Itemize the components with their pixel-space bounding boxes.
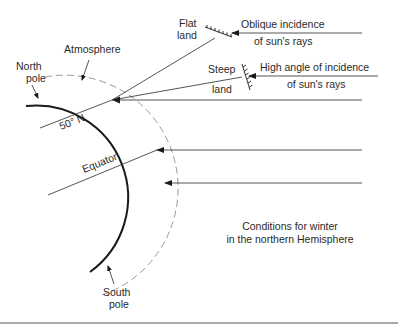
latitude-label: 50° N <box>57 111 86 132</box>
caption-line-2: in the northern Hemisphere <box>226 233 353 245</box>
steep-land-surface-icon <box>242 64 253 90</box>
north-pole-pointer <box>32 85 38 98</box>
south-pole-pointer <box>108 266 114 284</box>
south-pole-label-1: South <box>103 286 131 298</box>
atmosphere-arc <box>45 75 178 295</box>
south-pole-label-2: pole <box>109 298 129 310</box>
flat-land-label-1: Flat <box>179 17 197 29</box>
atmosphere-label: Atmosphere <box>64 43 121 55</box>
flat-land-surface-icon <box>205 25 232 37</box>
oblique-incidence-label-2: of sun's rays <box>254 35 313 47</box>
caption-line-1: Conditions for winter <box>242 220 338 232</box>
flat-land-label-2: land <box>177 29 197 41</box>
steep-land-label-2: land <box>212 83 232 95</box>
north-pole-label-2: pole <box>26 72 46 84</box>
high-angle-label-1: High angle of incidence <box>260 61 369 73</box>
oblique-incidence-label-1: Oblique incidence <box>241 18 325 30</box>
earth-surface-arc <box>26 105 128 272</box>
atmosphere-pointer <box>82 60 89 80</box>
earth-sun-incidence-diagram: North pole Atmosphere 50° N Equator Flat… <box>0 0 398 332</box>
steep-land-label-1: Steep <box>208 63 236 75</box>
north-pole-label-1: North <box>16 60 42 72</box>
equator-label: Equator <box>80 150 119 175</box>
high-angle-label-2: of sun's rays <box>287 78 346 90</box>
